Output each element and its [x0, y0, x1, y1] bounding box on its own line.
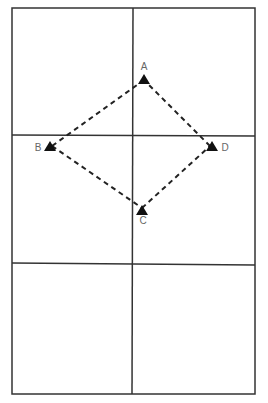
- marker-c-triangle-icon: [136, 205, 148, 215]
- connection-c-d: [142, 146, 210, 208]
- diagram-canvas: A B C D: [0, 0, 268, 403]
- marker-b-triangle-icon: [44, 141, 56, 151]
- horizontal-divider-2: [12, 263, 255, 265]
- label-b: B: [35, 142, 42, 153]
- vertical-divider: [132, 8, 133, 394]
- label-d: D: [221, 142, 228, 153]
- connection-b-c: [52, 146, 142, 208]
- label-c: C: [139, 215, 146, 226]
- label-a: A: [141, 61, 148, 72]
- horizontal-divider-1: [12, 135, 255, 136]
- marker-a-triangle-icon: [138, 74, 150, 84]
- dashed-connections: [52, 80, 210, 208]
